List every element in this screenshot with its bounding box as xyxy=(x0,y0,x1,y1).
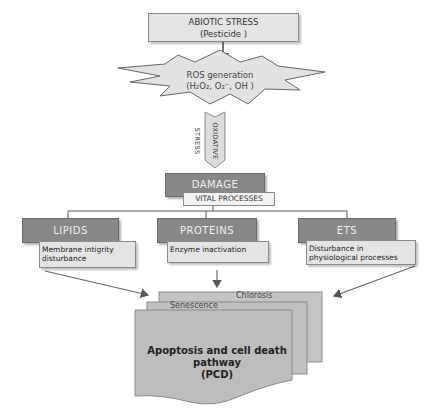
abiotic-stress-box: ABIOTIC STRESS (Pesticide ) xyxy=(148,13,299,42)
abiotic-stress-subtitle: (Pesticide ) xyxy=(149,28,298,40)
abiotic-stress-title: ABIOTIC STRESS xyxy=(149,16,298,28)
proteins-effect-box: Enzyme inactivation xyxy=(167,241,269,263)
lipids-effect-box: Membrane intigrity disturbance xyxy=(39,241,136,268)
ros-title: ROS generation xyxy=(170,70,270,81)
chlorosis-label: Chlorosis xyxy=(236,291,272,300)
pcd-label: Apoptosis and cell death pathway (PCD) xyxy=(142,345,292,381)
oxidative-stress-arrow: OXIDATIVE STRESS xyxy=(206,117,224,165)
ros-species: (H₂O₂, O₂⁻, OH ) xyxy=(170,81,270,92)
oxidative-stress-label: OXIDATIVE STRESS xyxy=(206,117,224,165)
pcd-line1: Apoptosis and cell death xyxy=(142,345,292,357)
proteins-box: PROTEINS xyxy=(157,218,257,243)
pcd-line3: (PCD) xyxy=(142,369,292,381)
vital-processes-label: VITAL PROCESSES xyxy=(183,192,275,206)
lipids-box: LIPIDS xyxy=(22,218,119,243)
pcd-line2: pathway xyxy=(142,357,292,369)
senescence-label: Senescence xyxy=(170,301,218,310)
ros-generation-label: ROS generation (H₂O₂, O₂⁻, OH ) xyxy=(170,70,270,92)
ets-effect-box: Disturbance in physiological processes xyxy=(306,240,416,265)
